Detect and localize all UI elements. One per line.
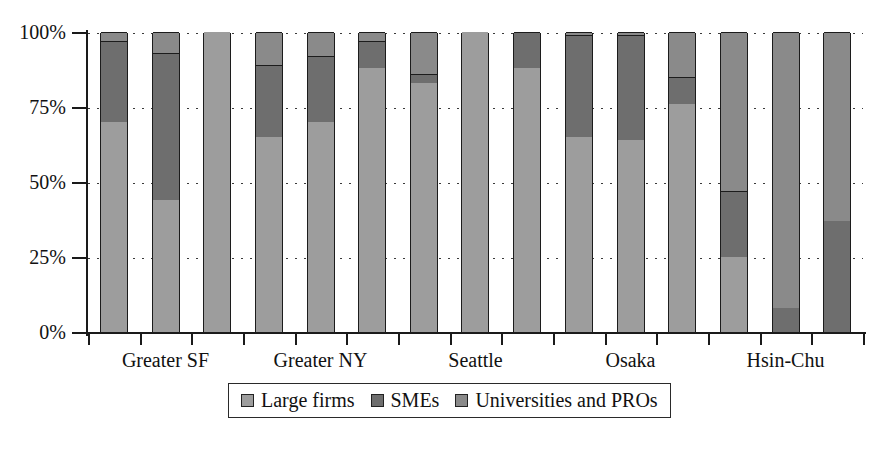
- bar-segment-large-firms: [462, 32, 488, 332]
- x-axis-tick: [450, 334, 452, 345]
- y-axis-tick: [72, 182, 86, 184]
- bar-segment-large-firms: [101, 122, 127, 332]
- bar-segment-large-firms: [514, 68, 540, 332]
- x-axis-tick: [656, 334, 658, 345]
- bar-segment-smes: [359, 41, 385, 68]
- bar[interactable]: [255, 33, 283, 333]
- bar-segment-smes: [669, 77, 695, 104]
- x-axis-tick: [708, 334, 710, 345]
- bar-segment-smes: [824, 221, 850, 332]
- bar-segment-large-firms: [618, 140, 644, 332]
- bar-segment-universities-and-pros: [721, 32, 747, 191]
- x-axis-tick: [346, 334, 348, 345]
- bar-segment-universities-and-pros: [773, 32, 799, 308]
- bar-segment-smes: [566, 35, 592, 137]
- x-axis-tick: [553, 334, 555, 345]
- y-axis-tick: [72, 107, 86, 109]
- bar-segment-smes: [514, 32, 540, 68]
- x-axis-tick: [295, 334, 297, 345]
- bar-segment-large-firms: [669, 104, 695, 332]
- legend-label: Universities and PROs: [475, 388, 657, 412]
- bar-segment-universities-and-pros: [824, 32, 850, 221]
- bar-segment-smes: [153, 53, 179, 200]
- bar-segment-universities-and-pros: [256, 32, 282, 65]
- x-axis-tick: [863, 334, 865, 345]
- bar-segment-universities-and-pros: [669, 32, 695, 77]
- bar-segment-large-firms: [359, 68, 385, 332]
- bar-segment-universities-and-pros: [101, 32, 127, 41]
- x-axis-tick: [760, 334, 762, 345]
- stacked-bar-chart: 100%75%50%25%0% Greater SFGreater NYSeat…: [0, 0, 879, 450]
- bar-segment-large-firms: [411, 83, 437, 332]
- bar-segment-large-firms: [308, 122, 334, 332]
- bar[interactable]: [203, 33, 231, 333]
- bar[interactable]: [617, 33, 645, 333]
- plot-area: [88, 33, 863, 333]
- bar-segment-universities-and-pros: [359, 32, 385, 41]
- bar[interactable]: [565, 33, 593, 333]
- y-axis-tick-label: 75%: [29, 97, 66, 117]
- y-axis-tick: [72, 257, 86, 259]
- x-axis-tick: [398, 334, 400, 345]
- x-axis-tick: [811, 334, 813, 345]
- x-axis-tick: [191, 334, 193, 345]
- bar[interactable]: [772, 33, 800, 333]
- bar-segment-smes: [721, 191, 747, 257]
- bar-segment-smes: [618, 35, 644, 140]
- bar-segment-large-firms: [153, 200, 179, 332]
- bar[interactable]: [410, 33, 438, 333]
- y-axis-tick: [72, 32, 86, 34]
- chart-legend: Large firmsSMEsUniversities and PROs: [228, 383, 671, 418]
- bar-segment-universities-and-pros: [411, 32, 437, 74]
- bar-segment-smes: [773, 308, 799, 332]
- bar-segment-smes: [256, 65, 282, 137]
- x-axis-tick: [243, 334, 245, 345]
- legend-label: SMEs: [391, 388, 440, 412]
- bar[interactable]: [668, 33, 696, 333]
- x-axis-group-label: Hsin-Chu: [686, 348, 879, 372]
- legend-swatch-icon: [455, 394, 468, 407]
- bar[interactable]: [513, 33, 541, 333]
- bar[interactable]: [823, 33, 851, 333]
- bar-segment-universities-and-pros: [153, 32, 179, 53]
- y-axis-tick: [72, 332, 86, 334]
- legend-item[interactable]: Universities and PROs: [455, 388, 657, 412]
- bar[interactable]: [307, 33, 335, 333]
- legend-swatch-icon: [241, 394, 254, 407]
- x-axis-tick: [605, 334, 607, 345]
- y-axis-tick-label: 100%: [19, 22, 66, 42]
- bar[interactable]: [152, 33, 180, 333]
- legend-item[interactable]: SMEs: [371, 388, 440, 412]
- y-axis-tick-label: 50%: [29, 172, 66, 192]
- x-axis-tick: [88, 334, 90, 345]
- x-axis-tick: [501, 334, 503, 345]
- bar-segment-smes: [308, 56, 334, 122]
- bar-segment-smes: [101, 41, 127, 122]
- y-axis-tick-label: 0%: [39, 322, 66, 342]
- bar-segment-smes: [411, 74, 437, 83]
- bar[interactable]: [358, 33, 386, 333]
- bar-segment-universities-and-pros: [308, 32, 334, 56]
- legend-item[interactable]: Large firms: [241, 388, 355, 412]
- bar[interactable]: [720, 33, 748, 333]
- bar[interactable]: [461, 33, 489, 333]
- legend-swatch-icon: [371, 394, 384, 407]
- legend-label: Large firms: [261, 388, 355, 412]
- bar-segment-large-firms: [204, 32, 230, 332]
- y-axis-tick-label: 25%: [29, 247, 66, 267]
- bar-segment-large-firms: [256, 137, 282, 332]
- bar[interactable]: [100, 33, 128, 333]
- bar-segment-universities-and-pros: [618, 32, 644, 35]
- x-axis-tick: [140, 334, 142, 345]
- bar-segment-large-firms: [566, 137, 592, 332]
- bar-segment-large-firms: [721, 257, 747, 332]
- bar-segment-universities-and-pros: [566, 32, 592, 35]
